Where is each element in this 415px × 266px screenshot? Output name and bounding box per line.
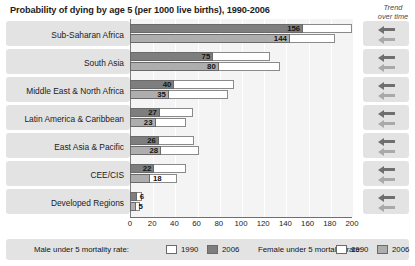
legend-female-1990-label: 1990	[351, 245, 368, 254]
legend-male-1990-label: 1990	[181, 245, 198, 254]
trend-arrow-left-female-icon	[378, 63, 395, 72]
legend-female-2006-swatch	[377, 245, 388, 254]
bar-group: 6	[130, 192, 352, 201]
legend-male-2006-label: 2006	[222, 245, 239, 254]
x-tick-label: 200	[340, 219, 364, 228]
bar-group: 5	[130, 202, 352, 211]
legend-female-2006-label: 2006	[392, 245, 409, 254]
x-tick-label: 100	[229, 219, 253, 228]
chart-title: Probability of dying by age 5 (per 1000 …	[10, 5, 270, 15]
region-label: CEE/CIS	[6, 170, 124, 180]
bar-group: 22	[130, 164, 352, 173]
trend-header-line1: Trend	[371, 3, 415, 12]
region-label: Middle East & North Africa	[6, 86, 124, 96]
trend-arrow-left-female-icon	[378, 203, 395, 212]
bar-2006	[130, 174, 150, 183]
x-tick-label: 60	[185, 219, 209, 228]
chart-legend: Male under 5 mortality rate: 1990 2006 F…	[6, 239, 409, 260]
bar-group: 27	[130, 108, 352, 117]
bar-value-label: 80	[130, 62, 216, 71]
x-tick-label: 0	[118, 219, 142, 228]
trend-arrow-left-female-icon	[378, 35, 395, 44]
trend-header-line2: over time	[371, 12, 415, 21]
gridline	[353, 19, 354, 217]
trend-arrow-left-female-icon	[378, 91, 395, 100]
x-tick-label: 20	[140, 219, 164, 228]
bar-value-label: 18	[153, 174, 162, 183]
trend-arrow-left-female-icon	[378, 147, 395, 156]
bar-value-label: 26	[130, 136, 156, 145]
bar-value-label: 35	[130, 90, 166, 99]
bar-value-label: 22	[130, 164, 151, 173]
bar-group: 75	[130, 52, 352, 61]
x-tick-label: 40	[162, 219, 186, 228]
bar-group: 156	[130, 24, 352, 33]
trend-arrow-left-female-icon	[378, 119, 395, 128]
bar-group: 80	[130, 62, 352, 71]
bar-value-label: 23	[130, 118, 153, 127]
x-tick-label: 180	[318, 219, 342, 228]
trend-arrow-left-male-icon	[378, 53, 395, 62]
bar-value-label: 28	[130, 146, 158, 155]
trend-arrow-left-male-icon	[378, 165, 395, 174]
bar-value-label: 144	[130, 34, 287, 43]
region-label: East Asia & Pacific	[6, 142, 124, 152]
region-label: Sub-Saharan Africa	[6, 30, 124, 40]
region-label: Developed Regions	[6, 198, 124, 208]
trend-column-header: Trend over time	[371, 3, 415, 21]
region-label: Latin America & Caribbean	[6, 114, 124, 124]
trend-arrow-left-male-icon	[378, 109, 395, 118]
bar-group: 26	[130, 136, 352, 145]
x-tick-label: 120	[251, 219, 275, 228]
region-label: South Asia	[6, 58, 124, 68]
x-tick-label: 160	[296, 219, 320, 228]
bar-value-label: 6	[140, 192, 144, 201]
bar-value-label: 40	[130, 80, 171, 89]
bar-2006	[130, 202, 136, 211]
bar-group: 23	[130, 118, 352, 127]
bar-value-label: 75	[130, 52, 210, 61]
trend-arrow-left-female-icon	[378, 175, 395, 184]
legend-female-1990-swatch	[336, 245, 347, 254]
bar-group: 35	[130, 90, 352, 99]
bar-group: 40	[130, 80, 352, 89]
x-tick-label: 140	[273, 219, 297, 228]
trend-arrow-left-male-icon	[378, 81, 395, 90]
chart-card: Probability of dying by age 5 (per 1000 …	[0, 0, 415, 266]
legend-male-1990-swatch	[166, 245, 177, 254]
trend-arrow-left-male-icon	[378, 193, 395, 202]
trend-arrow-left-male-icon	[378, 25, 395, 34]
bar-value-label: 27	[130, 108, 157, 117]
bar-group: 18	[130, 174, 352, 183]
bar-group: 28	[130, 146, 352, 155]
x-tick-label: 80	[207, 219, 231, 228]
bar-value-label: 156	[130, 24, 300, 33]
x-axis-line	[130, 217, 352, 218]
bar-group: 144	[130, 34, 352, 43]
trend-arrow-left-male-icon	[378, 137, 395, 146]
bar-2006	[130, 192, 137, 201]
legend-male-label: Male under 5 mortality rate:	[34, 245, 129, 254]
legend-male-2006-swatch	[207, 245, 218, 254]
bar-value-label: 5	[139, 202, 143, 211]
